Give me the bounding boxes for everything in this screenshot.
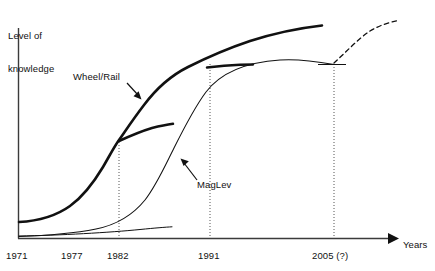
maglev-early-stub-line <box>19 227 172 236</box>
chart-figure: Level of knowledge Years 1971 1977 1982 … <box>0 0 435 271</box>
x-tick-label-1982: 1982 <box>107 250 129 261</box>
gridlines <box>119 64 334 238</box>
x-axis-arrowhead <box>388 233 399 244</box>
x-tick-label-1977: 1977 <box>61 250 83 261</box>
x-axis-title: Years <box>403 239 427 250</box>
x-tick-label-1991: 1991 <box>198 250 220 261</box>
maglev-projection-line <box>334 21 399 64</box>
wheel-rail-callout-arrow <box>127 83 142 100</box>
chart-plot-area <box>0 0 435 271</box>
series-label-wheel-rail: Wheel/Rail <box>73 71 120 82</box>
y-axis-title-line1: Level of <box>8 30 54 41</box>
series-label-maglev: MagLev <box>197 179 231 190</box>
x-tick-label-1971: 1971 <box>6 250 28 261</box>
y-axis-title: Level of knowledge <box>8 8 54 96</box>
x-tick-label-2005: 2005 (?) <box>312 250 348 261</box>
maglev-callout-arrow <box>181 159 198 181</box>
y-axis-title-line2: knowledge <box>8 63 54 74</box>
axes <box>18 28 399 244</box>
